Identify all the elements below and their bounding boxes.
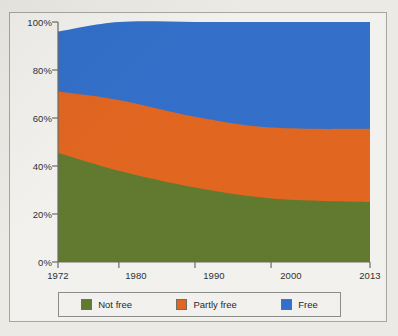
x-tick-label-1972: 1972	[38, 270, 78, 281]
x-tick-label-1990: 1990	[194, 270, 234, 281]
y-tick-label-20: 20%	[14, 209, 52, 220]
y-tick-label-40: 40%	[14, 161, 52, 172]
legend-swatch-not-free	[81, 299, 92, 310]
plot-area: 100% 80% 60% 40% 20% 0% 1972 1980 1990 2…	[0, 0, 398, 336]
legend-label-not-free: Not free	[98, 299, 132, 310]
x-axis-ticks	[58, 262, 370, 268]
legend-item-partly-free[interactable]: Partly free	[176, 299, 236, 310]
stacked-area-chart	[0, 0, 398, 336]
y-tick-label-100: 100%	[14, 17, 52, 28]
chart-page: 100% 80% 60% 40% 20% 0% 1972 1980 1990 2…	[0, 0, 398, 336]
y-axis-ticks	[52, 22, 58, 262]
legend-item-free[interactable]: Free	[281, 299, 318, 310]
legend-swatch-free	[281, 299, 292, 310]
legend-swatch-partly-free	[176, 299, 187, 310]
x-tick-label-2000: 2000	[271, 270, 311, 281]
legend-item-not-free[interactable]: Not free	[81, 299, 132, 310]
y-tick-label-0: 0%	[14, 257, 52, 268]
legend-label-partly-free: Partly free	[193, 299, 236, 310]
x-tick-label-1980: 1980	[116, 270, 156, 281]
y-tick-label-80: 80%	[14, 65, 52, 76]
y-tick-label-60: 60%	[14, 113, 52, 124]
chart-legend: Not free Partly free Free	[58, 292, 341, 317]
legend-label-free: Free	[298, 299, 318, 310]
x-tick-label-2013: 2013	[350, 270, 390, 281]
